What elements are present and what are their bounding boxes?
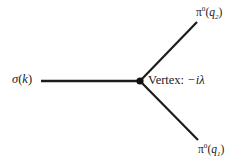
label-outgoing-pion-bottom: π0(q1) <box>198 144 224 156</box>
vertex-annotation-coupling: −iλ <box>187 73 204 87</box>
label-incoming-sigma: σ(k) <box>12 73 32 86</box>
vertex-annotation-text: Vertex: <box>148 73 184 87</box>
feynman-diagram-canvas: σ(k) π0(q2) π0(q1) Vertex: −iλ <box>0 0 245 164</box>
leg-line-outgoing-pion-bottom <box>140 81 198 140</box>
label-vertex-annotation: Vertex: −iλ <box>148 74 205 87</box>
label-outgoing-bottom-close-paren: ) <box>221 143 225 155</box>
vertex-dot <box>136 77 143 84</box>
label-incoming-close-paren: ) <box>28 72 32 86</box>
label-outgoing-pion-top: π0(q2) <box>196 7 222 19</box>
diagram-lines-svg <box>0 0 245 164</box>
label-outgoing-top-close-paren: ) <box>219 6 223 18</box>
